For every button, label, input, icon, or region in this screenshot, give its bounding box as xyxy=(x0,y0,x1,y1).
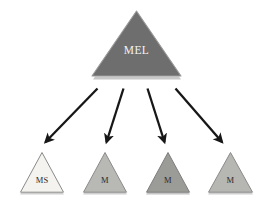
diagram-root: MEL MS M M M xyxy=(0,0,271,203)
child-1-triangle-label: MS xyxy=(36,175,49,185)
node-child-3[interactable]: M xyxy=(146,153,190,195)
connector-arrow-2[interactable] xyxy=(107,89,124,143)
child-3-triangle-shape xyxy=(147,153,190,193)
node-root-mel[interactable]: MEL xyxy=(92,11,181,80)
node-child-2[interactable]: M xyxy=(83,153,127,195)
node-child-4[interactable]: M xyxy=(208,153,253,195)
connector-group xyxy=(46,89,223,143)
diagram-canvas: MEL MS M M M xyxy=(0,0,271,203)
node-child-1[interactable]: MS xyxy=(20,153,64,195)
child-3-triangle-label: M xyxy=(164,175,172,185)
child-4-triangle-shadow xyxy=(208,192,253,194)
root-triangle-label: MEL xyxy=(124,44,149,56)
child-1-triangle-shape xyxy=(21,153,64,193)
connector-arrow-1[interactable] xyxy=(46,89,98,143)
root-triangle-shadow xyxy=(93,77,181,80)
child-2-triangle-label: M xyxy=(101,175,109,185)
child-3-triangle-shadow xyxy=(146,192,190,194)
child-4-triangle-shape xyxy=(209,153,253,193)
connector-arrow-4[interactable] xyxy=(176,89,223,143)
child-1-triangle-shadow xyxy=(20,192,64,194)
connector-arrow-3[interactable] xyxy=(148,89,165,143)
child-4-triangle-label: M xyxy=(227,175,235,185)
child-2-triangle-shadow xyxy=(83,192,127,194)
child-2-triangle-shape xyxy=(84,153,127,193)
